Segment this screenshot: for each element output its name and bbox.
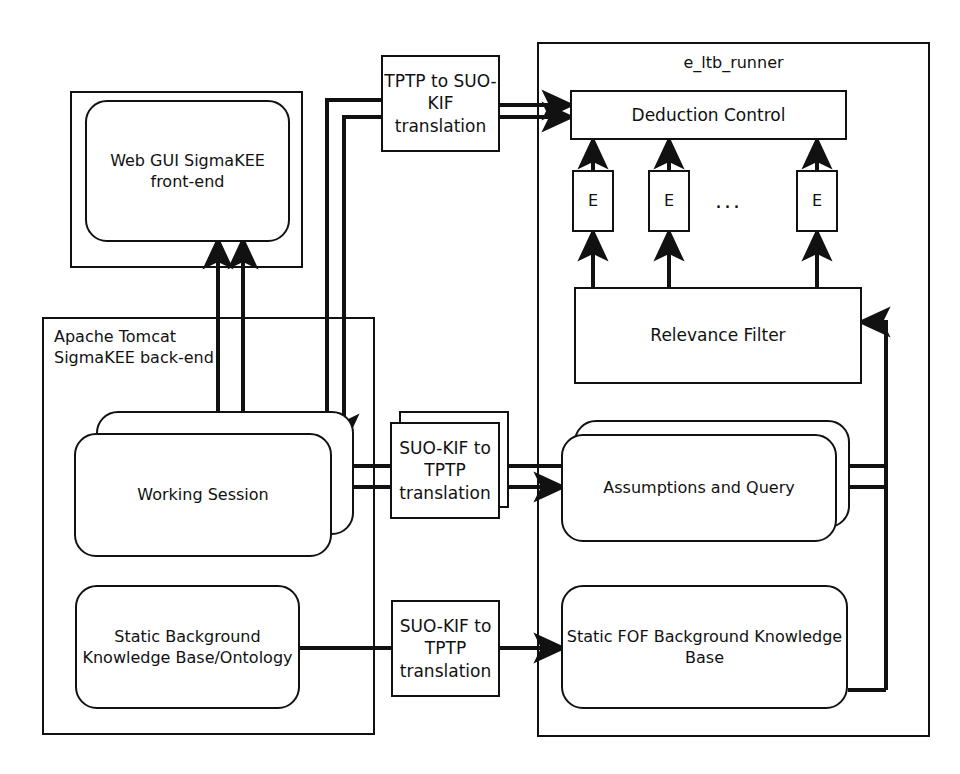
web-gui-box[interactable]: Web GUI SigmaKEE front-end [85,100,290,242]
relevance-filter-box[interactable]: Relevance Filter [574,287,862,384]
working-session-box[interactable]: Working Session [74,433,332,557]
apache-tomcat-label: Apache Tomcat SigmaKEE back-end [54,326,354,369]
prover-e-1-box[interactable]: E [572,170,614,232]
prover-e-2-box[interactable]: E [648,170,690,232]
prover-e-n-box[interactable]: E [796,170,838,232]
prover-ellipsis: ... [715,188,742,213]
suokif-to-tptp-session-box[interactable]: SUO-KIF to TPTP translation [390,422,500,519]
tptp-to-suokif-translation-box[interactable]: TPTP to SUO-KIF translation [381,55,500,152]
suokif-to-tptp-kb-box[interactable]: SUO-KIF to TPTP translation [391,600,500,697]
assumptions-and-query-box[interactable]: Assumptions and Query [561,434,837,542]
e-ltb-runner-label: e_ltb_runner [537,52,930,73]
deduction-control-box[interactable]: Deduction Control [570,90,847,140]
diagram-canvas: Working Session : two bidirectional vert… [0,0,960,774]
static-background-kb-box[interactable]: Static Background Knowledge Base/Ontolog… [75,585,300,709]
static-fof-kb-box[interactable]: Static FOF Background Knowledge Base [561,585,848,709]
